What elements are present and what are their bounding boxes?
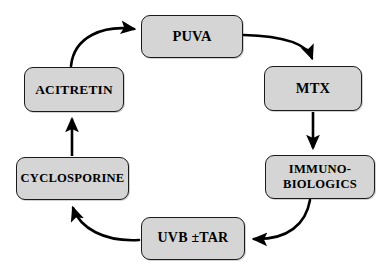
node-mtx-label: MTX [294,80,332,97]
node-uvb-tar-label: UVB ±TAR [156,230,231,247]
node-cyclosporine-label: CYCLOSPORINE [19,171,127,186]
node-immuno-biologics-label: IMMUNO- BIOLOGICS [281,162,359,192]
node-puva-label: PUVA [170,28,213,45]
node-puva[interactable]: PUVA [141,15,243,58]
node-cyclosporine[interactable]: CYCLOSPORINE [16,157,129,200]
edge-puva-to-mtx [244,35,312,58]
node-acitretin[interactable]: ACITRETIN [24,67,124,112]
edge-uvb-to-cyclo [73,208,139,240]
diagram-canvas: PUVA MTX IMMUNO- BIOLOGICS UVB ±TAR CYCL… [0,0,382,275]
node-mtx[interactable]: MTX [264,66,362,111]
edge-immuno-to-uvb [254,200,310,239]
node-immuno-biologics[interactable]: IMMUNO- BIOLOGICS [265,155,375,199]
edge-acitretin-to-puva [71,28,134,66]
node-acitretin-label: ACITRETIN [33,82,115,98]
node-uvb-tar[interactable]: UVB ±TAR [141,217,245,260]
